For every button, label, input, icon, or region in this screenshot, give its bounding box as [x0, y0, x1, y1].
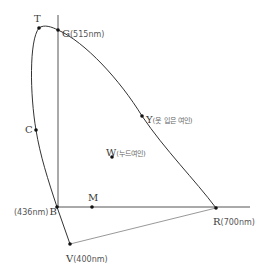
label-R-letter: R — [213, 216, 221, 227]
label-Y-letter: Y — [146, 114, 153, 125]
label-C: C — [25, 125, 33, 135]
label-G-letter: G — [62, 28, 70, 39]
point-Y-dot — [140, 114, 144, 118]
chromaticity-diagram: T G(515nm) C Y(옷 입은 여인) W(누드여인) (436nm)B… — [0, 0, 269, 276]
purple-line — [70, 208, 216, 244]
label-G: G(515nm) — [62, 24, 104, 40]
point-T-dot — [37, 26, 41, 30]
point-G-dot — [56, 28, 60, 32]
label-G-note: (515nm) — [70, 30, 104, 39]
label-W: W(누드여인) — [106, 143, 146, 159]
label-W-note: (누드여인) — [116, 150, 145, 158]
label-W-letter: W — [106, 147, 116, 158]
label-B: (436nm)B — [14, 202, 57, 218]
point-M-dot — [90, 205, 94, 209]
label-R: R(700nm) — [213, 212, 255, 228]
diagram-canvas — [0, 0, 269, 276]
label-Y: Y(옷 입은 여인) — [146, 110, 193, 126]
label-M: M — [88, 193, 98, 203]
label-V-note: (400nm) — [73, 255, 107, 264]
spectral-locus-curve — [31, 26, 216, 244]
label-R-note: (700nm) — [221, 218, 255, 227]
label-T: T — [34, 14, 41, 24]
label-B-letter: B — [49, 206, 56, 217]
label-Y-note: (옷 입은 여인) — [153, 117, 193, 125]
label-B-note: (436nm) — [14, 208, 48, 217]
point-R-dot — [214, 206, 218, 210]
point-V-dot — [68, 242, 72, 246]
point-C-dot — [34, 128, 38, 132]
label-V: V(400nm) — [66, 249, 108, 265]
